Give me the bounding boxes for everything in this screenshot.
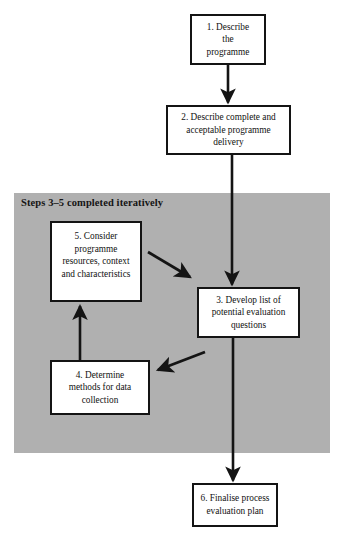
process-node-1-text: 1. Describe the programme	[207, 21, 250, 59]
process-node-5-text: 5. Consider programme resources, context…	[62, 230, 131, 280]
process-node-4-text: 4. Determine methods for data collection	[69, 369, 131, 407]
process-node-2-text: 2. Describe complete and acceptable prog…	[181, 111, 275, 149]
process-node-6-text: 6. Finalise process evaluation plan	[201, 492, 270, 517]
iterative-steps-label: Steps 3–5 completed iteratively	[21, 197, 163, 208]
process-node-4[interactable]: 4. Determine methods for data collection	[50, 360, 150, 415]
process-node-5[interactable]: 5. Consider programme resources, context…	[50, 221, 142, 302]
process-node-3[interactable]: 3. Develop list of potential evaluation …	[197, 287, 300, 338]
process-node-6[interactable]: 6. Finalise process evaluation plan	[192, 483, 278, 527]
process-node-3-text: 3. Develop list of potential evaluation …	[212, 294, 286, 332]
process-node-2[interactable]: 2. Describe complete and acceptable prog…	[166, 105, 291, 155]
flowchart-canvas: Steps 3–5 completed iteratively	[0, 0, 345, 546]
process-node-1[interactable]: 1. Describe the programme	[190, 14, 266, 65]
